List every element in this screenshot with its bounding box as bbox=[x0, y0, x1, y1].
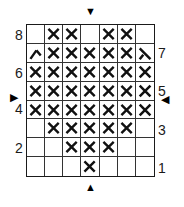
x-mark-icon bbox=[45, 82, 62, 100]
grid-cell[interactable] bbox=[81, 63, 99, 82]
row-label-4: 4 bbox=[15, 102, 23, 116]
grid-cell[interactable] bbox=[45, 119, 63, 138]
grid-cell[interactable] bbox=[100, 101, 118, 120]
grid-cell[interactable] bbox=[63, 63, 81, 82]
x-mark-icon bbox=[100, 138, 117, 156]
x-mark-icon bbox=[63, 63, 80, 81]
grid-cell[interactable] bbox=[100, 157, 118, 176]
grid-cell[interactable] bbox=[118, 63, 136, 82]
row-label-2: 2 bbox=[15, 141, 23, 155]
grid-cell[interactable] bbox=[136, 25, 154, 44]
grid-cell[interactable] bbox=[136, 119, 154, 138]
grid-cell[interactable] bbox=[100, 44, 118, 63]
x-mark-icon bbox=[81, 63, 98, 81]
grid-cell[interactable] bbox=[81, 25, 99, 44]
grid-cell[interactable] bbox=[27, 138, 45, 157]
grid-cell[interactable] bbox=[136, 44, 154, 63]
grid-cell[interactable] bbox=[45, 82, 63, 101]
x-mark-icon bbox=[136, 63, 154, 81]
grid-cell[interactable] bbox=[45, 101, 63, 120]
grid-cell[interactable] bbox=[45, 63, 63, 82]
x-mark-icon bbox=[81, 82, 98, 100]
grid-cell[interactable] bbox=[81, 101, 99, 120]
x-mark-icon bbox=[27, 101, 44, 119]
x-mark-icon bbox=[118, 119, 135, 137]
grid-cell[interactable] bbox=[100, 63, 118, 82]
x-mark-icon bbox=[81, 119, 98, 137]
grid-cell[interactable] bbox=[118, 25, 136, 44]
grid-cell[interactable] bbox=[100, 82, 118, 101]
grid-cell[interactable] bbox=[81, 82, 99, 101]
x-mark-icon bbox=[100, 25, 117, 43]
grid-cell[interactable] bbox=[27, 119, 45, 138]
x-mark-icon bbox=[63, 138, 80, 156]
grid-cell[interactable] bbox=[63, 25, 81, 44]
x-mark-icon bbox=[45, 119, 62, 137]
x-mark-icon bbox=[81, 101, 98, 119]
grid-cell[interactable] bbox=[27, 25, 45, 44]
x-mark-icon bbox=[63, 82, 80, 100]
x-mark-icon bbox=[63, 25, 80, 43]
grid-cell[interactable] bbox=[45, 44, 63, 63]
grid-cell[interactable] bbox=[45, 25, 63, 44]
grid-cell[interactable] bbox=[118, 101, 136, 120]
grid-cell[interactable] bbox=[27, 63, 45, 82]
grid-cell[interactable] bbox=[118, 119, 136, 138]
x-mark-icon bbox=[118, 101, 135, 119]
grid-cell[interactable] bbox=[63, 138, 81, 157]
puzzle-grid bbox=[26, 24, 155, 177]
x-mark-icon bbox=[100, 44, 117, 62]
x-mark-icon bbox=[118, 82, 135, 100]
x-mark-icon bbox=[63, 44, 80, 62]
x-mark-icon bbox=[100, 101, 117, 119]
x-mark-icon bbox=[27, 63, 44, 81]
grid-cell[interactable] bbox=[81, 138, 99, 157]
x-mark-icon bbox=[45, 63, 62, 81]
grid-cell[interactable] bbox=[81, 119, 99, 138]
row-label-6: 6 bbox=[15, 66, 23, 80]
x-mark-icon bbox=[81, 138, 98, 156]
grid-cell[interactable] bbox=[118, 44, 136, 63]
x-mark-icon bbox=[136, 82, 154, 100]
x-mark-icon bbox=[100, 63, 117, 81]
grid-cell[interactable] bbox=[136, 138, 154, 157]
grid-cell[interactable] bbox=[118, 157, 136, 176]
grid-cell[interactable] bbox=[136, 63, 154, 82]
grid-cell[interactable] bbox=[136, 101, 154, 120]
grid-cell[interactable] bbox=[100, 25, 118, 44]
grid-cell[interactable] bbox=[63, 44, 81, 63]
grid-cell[interactable] bbox=[118, 82, 136, 101]
row-label-1: 1 bbox=[158, 161, 166, 175]
x-mark-icon bbox=[118, 25, 135, 43]
grid-cell[interactable] bbox=[63, 101, 81, 120]
grid-cell[interactable] bbox=[136, 82, 154, 101]
grid-cell[interactable] bbox=[63, 119, 81, 138]
row-label-3: 3 bbox=[158, 123, 166, 137]
grid-cell[interactable] bbox=[27, 157, 45, 176]
grid-cell[interactable] bbox=[100, 119, 118, 138]
partial-mark-icon bbox=[27, 44, 44, 62]
grid-cell[interactable] bbox=[27, 101, 45, 120]
grid-cell[interactable] bbox=[27, 44, 45, 63]
x-mark-icon bbox=[45, 44, 62, 62]
grid-cell[interactable] bbox=[136, 157, 154, 176]
grid-cell[interactable] bbox=[81, 157, 99, 176]
x-mark-icon bbox=[27, 82, 44, 100]
x-mark-icon bbox=[81, 157, 98, 176]
x-mark-icon bbox=[136, 101, 154, 119]
grid-cell[interactable] bbox=[45, 138, 63, 157]
grid-cell[interactable] bbox=[27, 82, 45, 101]
x-mark-icon bbox=[45, 101, 62, 119]
grid-cell[interactable] bbox=[63, 157, 81, 176]
x-mark-icon bbox=[100, 82, 117, 100]
grid-cell[interactable] bbox=[81, 44, 99, 63]
x-mark-icon bbox=[63, 119, 80, 137]
x-mark-icon bbox=[118, 44, 135, 62]
grid-cell[interactable] bbox=[118, 138, 136, 157]
grid-cell[interactable] bbox=[63, 82, 81, 101]
grid-cell[interactable] bbox=[45, 157, 63, 176]
row-label-7: 7 bbox=[158, 46, 166, 60]
grid-cell[interactable] bbox=[100, 138, 118, 157]
x-mark-icon bbox=[45, 25, 62, 43]
row-label-8: 8 bbox=[15, 28, 23, 42]
